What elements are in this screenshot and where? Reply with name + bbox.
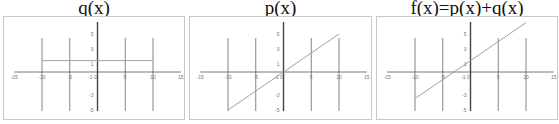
x-tick-label: -15 xyxy=(384,74,391,80)
y-tick-label: -3 xyxy=(89,92,94,98)
x-tick-label: 10 xyxy=(523,74,529,80)
x-tick-label: 10 xyxy=(150,74,156,80)
plot-q: -15-10-5-1 051015531-3-5 xyxy=(4,17,186,121)
panel-f: f(x)=p(x)+q(x) -15-10-5-1 051015531-3-5 xyxy=(376,0,558,124)
x-tick-label: 15 xyxy=(364,74,370,80)
plot-p: -15-10-5-1 051015531-3-5 xyxy=(190,17,373,121)
x-tick-label: 5 xyxy=(310,74,313,80)
plot-frame: -15-10-5-1 051015531-3-5 xyxy=(189,16,372,120)
panel-q: q(x) -15-10-5-1 051015531-3-5 xyxy=(3,0,185,124)
x-tick-label: 15 xyxy=(178,74,184,80)
plot-frame: -15-10-5-1 051015531-3-5 xyxy=(376,16,558,120)
x-tick-label: -15 xyxy=(11,74,18,80)
y-tick-label: -3 xyxy=(462,92,467,98)
x-tick-label: -5 xyxy=(254,74,259,80)
x-tick-label: -10 xyxy=(38,74,45,80)
x-tick-label: -10 xyxy=(411,74,418,80)
x-tick-label: -15 xyxy=(197,74,204,80)
x-tick-label: -1 0 xyxy=(461,74,470,80)
x-tick-label: -10 xyxy=(224,74,231,80)
y-tick-label: 3 xyxy=(277,46,280,52)
x-tick-label: 10 xyxy=(336,74,342,80)
x-tick-label: 5 xyxy=(124,74,127,80)
plot-f: -15-10-5-1 051015531-3-5 xyxy=(377,17,559,121)
y-tick-label: -5 xyxy=(462,107,467,113)
y-tick-label: 1 xyxy=(91,61,94,67)
y-tick-label: -5 xyxy=(89,107,94,113)
y-tick-label: -5 xyxy=(275,107,280,113)
y-tick-label: 5 xyxy=(464,31,467,37)
panel-p: p(x) -15-10-5-1 051015531-3-5 xyxy=(189,0,372,124)
y-tick-label: 5 xyxy=(277,31,280,37)
x-tick-label: 15 xyxy=(551,74,557,80)
y-tick-label: 3 xyxy=(464,46,467,52)
x-tick-label: -5 xyxy=(68,74,73,80)
y-tick-label: 1 xyxy=(277,61,280,67)
plot-frame: -15-10-5-1 051015531-3-5 xyxy=(3,16,185,120)
y-tick-label: 3 xyxy=(91,46,94,52)
x-tick-label: -1 0 xyxy=(88,74,97,80)
y-tick-label: -3 xyxy=(275,92,280,98)
y-tick-label: 5 xyxy=(91,31,94,37)
x-tick-label: 5 xyxy=(497,74,500,80)
